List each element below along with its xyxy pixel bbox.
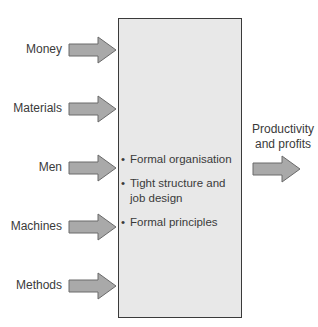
- bullet-item: •Formal principles: [121, 215, 243, 230]
- input-label-machines: Machines: [0, 219, 62, 233]
- input-label-men: Men: [0, 160, 62, 174]
- arrow-right-icon: [68, 36, 118, 64]
- input-label-materials: Materials: [0, 101, 62, 115]
- bullet-item: •Formal organisation: [121, 152, 243, 167]
- bullet-item: •Tight structure and job design: [121, 176, 243, 206]
- input-label-methods: Methods: [0, 278, 62, 292]
- arrow-right-icon: [252, 155, 302, 183]
- arrow-right-icon: [68, 95, 118, 123]
- output-label: Productivity and profits: [248, 122, 318, 152]
- arrow-right-icon: [68, 154, 118, 182]
- input-label-money: Money: [0, 42, 62, 56]
- arrow-right-icon: [68, 272, 118, 300]
- diagram-canvas: Money Materials Men Machines Methods •Fo…: [0, 0, 318, 327]
- arrow-right-icon: [68, 213, 118, 241]
- process-bullet-list: •Formal organisation •Tight structure an…: [121, 152, 243, 239]
